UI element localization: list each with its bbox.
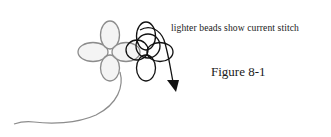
legend-note: lighter beads show current stitch (171, 22, 299, 33)
figure-canvas: lighter beads show current stitch Figure… (0, 0, 331, 137)
figure-label: Figure 8-1 (211, 64, 266, 80)
light-bead-group (78, 21, 140, 81)
dark-bead-bottom (137, 55, 156, 81)
arrow-head-icon (167, 80, 179, 92)
bead-stitch-diagram (0, 0, 331, 137)
dark-bead-top (137, 22, 156, 50)
